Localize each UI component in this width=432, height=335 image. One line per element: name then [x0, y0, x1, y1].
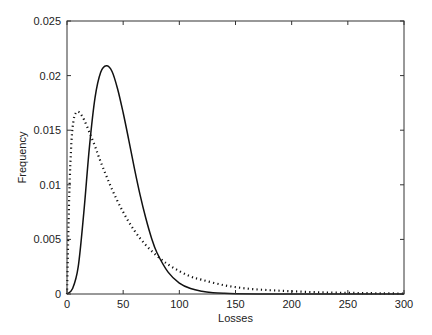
x-tick-label: 150 — [226, 298, 244, 310]
plot-area — [67, 21, 404, 294]
chart: 05010015020025030000.0050.010.0150.020.0… — [0, 0, 432, 335]
x-tick-label: 100 — [170, 298, 188, 310]
y-tick-label: 0.025 — [33, 15, 61, 27]
x-axis-label: Losses — [218, 312, 253, 324]
y-tick-label: 0 — [55, 288, 61, 300]
x-tick-label: 50 — [117, 298, 129, 310]
plot-background — [67, 21, 404, 294]
y-tick-label: 0.02 — [40, 70, 61, 82]
y-axis-label: Frequency — [16, 131, 28, 183]
x-tick-label: 0 — [64, 298, 70, 310]
x-tick-label: 300 — [395, 298, 413, 310]
y-tick-label: 0.005 — [33, 233, 61, 245]
x-tick-label: 200 — [282, 298, 300, 310]
y-tick-label: 0.015 — [33, 124, 61, 136]
y-tick-label: 0.01 — [40, 179, 61, 191]
x-tick-label: 250 — [339, 298, 357, 310]
